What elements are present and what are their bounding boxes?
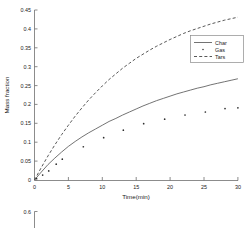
data-point bbox=[143, 123, 145, 125]
x-tick-1: 5 bbox=[67, 177, 70, 190]
x-tick-label: 25 bbox=[201, 184, 207, 190]
data-point bbox=[122, 129, 124, 131]
data-point bbox=[36, 178, 38, 180]
x-tick-label: 20 bbox=[167, 184, 173, 190]
data-point bbox=[224, 108, 226, 110]
data-point bbox=[55, 163, 57, 165]
x-axis-ticks: 0 5 10 15 20 bbox=[33, 177, 241, 190]
legend-label-char: Char bbox=[215, 40, 227, 46]
x-tick-label: 15 bbox=[133, 184, 139, 190]
y-axis-title: Mass fraction bbox=[3, 76, 10, 113]
x-tick-label: 0 bbox=[33, 184, 36, 190]
data-point bbox=[103, 137, 105, 139]
y-tick-label: 0.45 bbox=[21, 7, 32, 13]
y-tick-label: 0.05 bbox=[21, 158, 32, 164]
y-tick-6: 0.3 bbox=[24, 64, 38, 70]
y-tick-8: 0.4 bbox=[24, 26, 38, 32]
x-tick-3: 15 bbox=[133, 177, 139, 190]
chart-svg: 0 0.05 0.1 0.15 0.2 bbox=[0, 0, 248, 228]
y-tick-1: 0.05 bbox=[21, 158, 38, 164]
secondary-plot-partial: 0.6 bbox=[24, 209, 38, 228]
y-tick-label: 0.25 bbox=[21, 83, 32, 89]
legend-label-gas: Gas bbox=[215, 47, 225, 53]
data-point bbox=[42, 174, 44, 176]
y-tick-label: 0.15 bbox=[21, 120, 32, 126]
y-tick-label: 0.4 bbox=[24, 26, 32, 32]
x-tick-4: 20 bbox=[167, 177, 173, 190]
x-tick-5: 25 bbox=[201, 177, 207, 190]
x-tick-6: 30 bbox=[235, 177, 241, 190]
x-axis-title: Time(min) bbox=[122, 193, 150, 200]
data-point bbox=[164, 118, 166, 120]
x-tick-2: 10 bbox=[99, 177, 105, 190]
legend-swatch-dot-icon bbox=[202, 49, 204, 51]
data-point bbox=[237, 107, 239, 109]
legend[interactable]: Char Gas Tars bbox=[191, 36, 244, 63]
legend-label-tars: Tars bbox=[215, 54, 225, 60]
y-axis-ticks: 0 0.05 0.1 0.15 0.2 bbox=[21, 7, 38, 183]
data-point bbox=[61, 158, 63, 160]
y-tick-label: 0.3 bbox=[24, 64, 32, 70]
y-tick-label: 0.35 bbox=[21, 45, 32, 51]
data-point bbox=[205, 111, 207, 113]
y-tick-3: 0.15 bbox=[21, 120, 38, 126]
x-tick-label: 30 bbox=[235, 184, 241, 190]
y-tick-9: 0.45 bbox=[21, 7, 38, 13]
x-tick-label: 10 bbox=[99, 184, 105, 190]
y-tick-5: 0.25 bbox=[21, 83, 38, 89]
figure-container: 0 0.05 0.1 0.15 0.2 bbox=[0, 0, 248, 228]
data-point bbox=[48, 170, 50, 172]
main-plot: 0 0.05 0.1 0.15 0.2 bbox=[3, 7, 244, 200]
data-point bbox=[82, 146, 84, 148]
secondary-y-tick-label: 0.6 bbox=[24, 209, 32, 215]
y-tick-2: 0.1 bbox=[24, 139, 38, 145]
y-tick-7: 0.35 bbox=[21, 45, 38, 51]
y-tick-label: 0.1 bbox=[24, 139, 32, 145]
data-point bbox=[184, 114, 186, 116]
y-tick-label: 0.2 bbox=[24, 101, 32, 107]
y-tick-label: 0 bbox=[28, 177, 31, 183]
y-tick-4: 0.2 bbox=[24, 101, 38, 107]
x-tick-label: 5 bbox=[67, 184, 70, 190]
series-points-gas bbox=[36, 107, 239, 179]
